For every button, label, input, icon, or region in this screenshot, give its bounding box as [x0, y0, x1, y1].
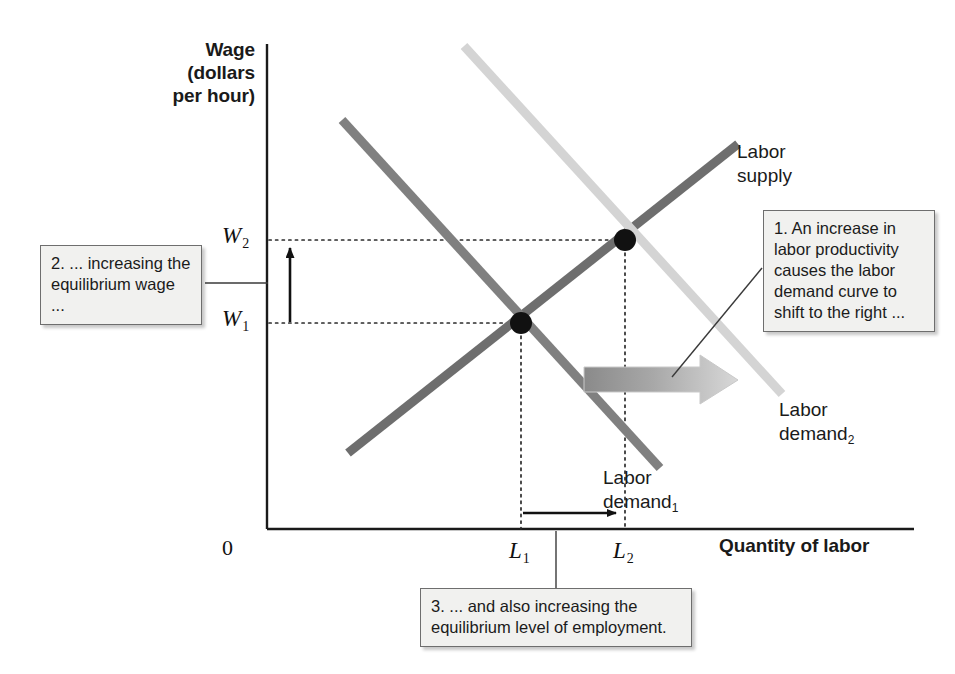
equilibrium-point-1: [510, 312, 532, 334]
labor-supply-label: Labor supply: [737, 140, 792, 188]
callout-box-2: 2. ... increasing the equilibrium wage .…: [40, 245, 202, 325]
y-axis-title-line-2: (dollars: [120, 61, 255, 84]
labor-demand-1-label-line-2: demand1: [603, 490, 678, 516]
x-tick-l1-sub: 1: [523, 551, 530, 566]
y-tick-w1: W1: [222, 306, 248, 332]
labor-demand-1-label-base: demand: [603, 491, 672, 512]
callout-box-3: 3. ... and also increasing the equilibri…: [420, 588, 692, 647]
x-tick-l2: L2: [613, 538, 633, 564]
labor-demand-1-label: Labor demand1: [603, 466, 678, 516]
x-tick-l1-base: L: [509, 538, 522, 563]
labor-market-diagram: Wage (dollars per hour) Quantity of labo…: [0, 0, 955, 674]
x-tick-l1: L1: [509, 538, 529, 564]
equilibrium-point-2: [614, 229, 636, 251]
y-axis-title-line-3: per hour): [120, 84, 255, 107]
labor-supply-label-line-1: Labor: [737, 140, 792, 164]
demand-shift-arrow: [584, 355, 738, 404]
labor-demand-2-label-sub: 2: [848, 433, 855, 447]
labor-demand-2-label-base: demand: [779, 423, 848, 444]
x-tick-l2-sub: 2: [627, 551, 634, 566]
labor-supply-label-line-2: supply: [737, 164, 792, 188]
y-tick-w2-sub: 2: [242, 236, 249, 251]
guide-lines: [269, 240, 625, 529]
labor-demand-2-curve: [464, 46, 782, 394]
y-tick-w2-base: W: [222, 223, 241, 248]
origin-label: 0: [222, 535, 233, 561]
y-axis-title: Wage (dollars per hour): [120, 38, 255, 107]
labor-demand-1-label-line-1: Labor: [603, 466, 678, 490]
callout-leader-lines: [205, 268, 762, 588]
y-axis-title-line-1: Wage: [120, 38, 255, 61]
y-tick-w2: W2: [222, 223, 248, 249]
callout-box-1: 1. An increase in labor productivity cau…: [763, 210, 935, 332]
labor-demand-1-label-sub: 1: [672, 501, 679, 515]
x-tick-l2-base: L: [613, 538, 626, 563]
labor-demand-2-label: Labor demand2: [779, 398, 854, 448]
labor-demand-2-label-line-2: demand2: [779, 422, 854, 448]
y-tick-w1-base: W: [222, 306, 241, 331]
y-tick-w1-sub: 1: [242, 319, 249, 334]
labor-demand-2-label-line-1: Labor: [779, 398, 854, 422]
x-axis-title: Quantity of labor: [719, 535, 869, 557]
